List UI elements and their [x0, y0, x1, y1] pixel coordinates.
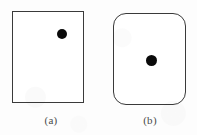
caption-b: (b) — [115, 114, 185, 126]
panel-b: (b) — [98, 0, 197, 135]
dot-marker-b — [146, 55, 157, 66]
dot-marker-a — [57, 29, 67, 39]
sharp-rectangle-shape — [12, 11, 84, 103]
panel-a: (a) — [0, 0, 98, 135]
figure-container: (a) (b) — [0, 0, 197, 135]
caption-a: (a) — [16, 114, 86, 126]
